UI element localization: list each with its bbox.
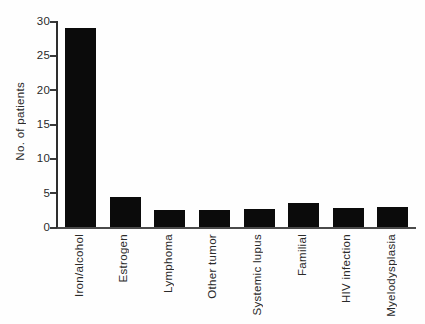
- x-tick-label-wrap-estrogen: Estrogen: [117, 234, 129, 286]
- bar-estrogen: [110, 197, 141, 227]
- x-tick-label-iron-alcohol: Iron/alcohol: [73, 234, 85, 297]
- x-tick-label-wrap-other-tumor: Other tumor: [206, 234, 218, 303]
- x-tick-label-myelodysplasia: Myelodysplasia: [385, 234, 397, 317]
- x-tick-label-wrap-systemic-lupus: Systemic lupus: [251, 234, 263, 320]
- bar-myelodysplasia: [377, 207, 408, 227]
- bar-other-tumor: [199, 210, 230, 227]
- y-tick-label-0: 0: [18, 221, 50, 234]
- y-tick-label-20: 20: [18, 84, 50, 97]
- bar-familial: [288, 203, 319, 227]
- x-tick-label-wrap-familial: Familial: [296, 234, 308, 280]
- x-tick-label-wrap-hiv-infection: HIV infection: [340, 234, 352, 307]
- y-tick-mark-25: [50, 55, 56, 57]
- y-tick-mark-10: [50, 158, 56, 160]
- bar-chart-figure: No. of patients 051015202530 Iron/alcoho…: [0, 0, 425, 324]
- plot-area: [56, 21, 416, 229]
- y-tick-label-25: 25: [18, 49, 50, 62]
- y-tick-mark-30: [50, 21, 56, 23]
- y-tick-label-15: 15: [18, 118, 50, 131]
- bar-iron-alcohol: [65, 28, 96, 227]
- x-tick-label-wrap-myelodysplasia: Myelodysplasia: [385, 234, 397, 321]
- y-tick-label-30: 30: [18, 15, 50, 28]
- bar-lymphoma: [154, 210, 185, 227]
- y-tick-label-5: 5: [18, 187, 50, 200]
- x-tick-label-estrogen: Estrogen: [117, 234, 129, 282]
- y-tick-mark-15: [50, 124, 56, 126]
- x-tick-label-other-tumor: Other tumor: [206, 234, 218, 299]
- y-tick-mark-0: [50, 227, 56, 229]
- x-tick-label-lymphoma: Lymphoma: [162, 234, 174, 293]
- x-tick-label-systemic-lupus: Systemic lupus: [251, 234, 263, 316]
- x-tick-label-wrap-lymphoma: Lymphoma: [162, 234, 174, 297]
- x-tick-label-familial: Familial: [296, 234, 308, 276]
- y-tick-mark-20: [50, 89, 56, 91]
- y-tick-mark-5: [50, 192, 56, 194]
- x-tick-label-wrap-iron-alcohol: Iron/alcohol: [73, 234, 85, 301]
- x-tick-label-hiv-infection: HIV infection: [340, 234, 352, 303]
- bar-hiv-infection: [333, 208, 364, 227]
- bar-systemic-lupus: [244, 209, 275, 227]
- y-tick-label-10: 10: [18, 152, 50, 165]
